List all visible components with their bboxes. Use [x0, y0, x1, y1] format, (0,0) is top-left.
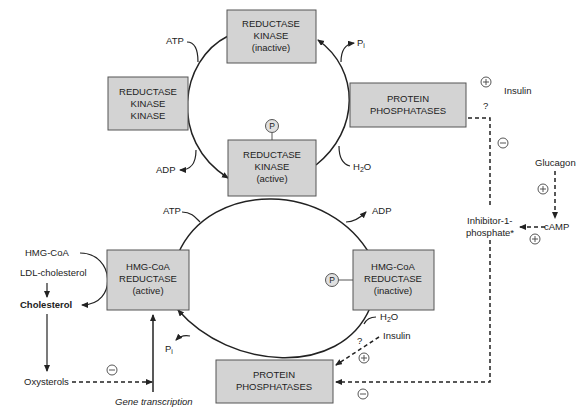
atp-top-arrow	[187, 42, 198, 62]
plus-sign-icon	[530, 234, 540, 244]
svg-text:PROTEIN: PROTEIN	[387, 93, 429, 104]
minus-sign-icon	[107, 365, 117, 375]
question-bottom-label: ?	[357, 335, 362, 346]
svg-text:(active): (active)	[132, 285, 163, 296]
h2o-bottom-arrow	[364, 317, 376, 324]
oxysterols-label: Oxysterols	[24, 376, 69, 387]
arc-phosphorylation-bottom	[178, 199, 372, 258]
pi-top-label: Pi	[357, 37, 365, 49]
plus-sign-icon	[481, 77, 491, 87]
atp-top-label: ATP	[166, 35, 184, 46]
adp-bottom-label: ADP	[372, 205, 392, 216]
arc-phosphorylation-top	[187, 36, 228, 178]
inhibitor-label-line1: Inhibitor-1-	[467, 215, 512, 226]
reductase-kinase-kinase-box: REDUCTASE KINASE KINASE	[108, 77, 188, 130]
svg-text:REDUCTASE: REDUCTASE	[119, 273, 177, 284]
minus-sign-icon	[358, 389, 368, 399]
atp-bottom-arrow	[182, 212, 200, 222]
svg-text:P: P	[329, 275, 335, 285]
h2o-bottom-label: H2O	[380, 311, 398, 323]
phosphate-tag-kinase: P	[266, 120, 279, 141]
svg-text:(active): (active)	[256, 173, 287, 184]
pi-bottom-arrow	[176, 336, 190, 340]
inhibitor-to-phosphatase-top	[370, 118, 490, 205]
svg-text:PROTEIN: PROTEIN	[253, 369, 295, 380]
h2o-top-label: H2O	[353, 161, 371, 173]
h2o-top-arrow	[339, 146, 350, 166]
question-top-label: ?	[483, 100, 488, 111]
arc-dephosphorylation-bottom	[178, 308, 370, 358]
svg-text:HMG-CoA: HMG-CoA	[126, 261, 170, 272]
reductase-kinase-inactive-box: REDUCTASE KINASE (inactive)	[227, 10, 316, 63]
pi-top-arrow	[341, 43, 354, 62]
gene-transcription-label: Gene transcription	[115, 396, 193, 407]
svg-text:KINASE: KINASE	[255, 161, 290, 172]
svg-text:PHOSPHATASES: PHOSPHATASES	[236, 381, 312, 392]
atp-bottom-label: ATP	[163, 205, 181, 216]
svg-text:KINASE: KINASE	[131, 110, 166, 121]
insulin-top-label: Insulin	[504, 85, 531, 96]
cholesterol-label: Cholesterol	[20, 299, 72, 310]
ldl-cholesterol-label: LDL-cholesterol	[20, 267, 87, 278]
reductase-kinase-active-box: REDUCTASE KINASE (active)	[228, 140, 316, 196]
hmg-coa-label: HMG-CoA	[25, 247, 69, 258]
svg-text:REDUCTASE: REDUCTASE	[242, 18, 300, 29]
protein-phosphatases-top-box: PROTEIN PHOSPHATASES	[350, 83, 466, 127]
hmg-coa-reductase-inactive-box: HMG-CoA REDUCTASE (inactive)	[353, 250, 434, 310]
svg-text:HMG-CoA: HMG-CoA	[371, 261, 415, 272]
inhibitor-label-line2: phosphate*	[466, 227, 514, 238]
camp-label: cAMP	[544, 221, 569, 232]
glucagon-label: Glucagon	[535, 157, 576, 168]
svg-text:P: P	[269, 121, 275, 131]
plus-sign-icon	[538, 184, 548, 194]
svg-text:KINASE: KINASE	[254, 30, 289, 41]
svg-text:REDUCTASE: REDUCTASE	[364, 273, 422, 284]
svg-text:PHOSPHATASES: PHOSPHATASES	[370, 105, 446, 116]
adp-bottom-arrow	[346, 212, 366, 222]
insulin-bottom-label: Insulin	[383, 330, 410, 341]
protein-phosphatases-bottom-box: PROTEIN PHOSPHATASES	[216, 360, 333, 403]
hmg-coa-regulation-diagram: REDUCTASE KINASE (inactive) REDUCTASE KI…	[0, 0, 586, 413]
adp-top-arrow	[180, 150, 196, 170]
hmgcoa-to-cholesterol-arrow	[80, 253, 108, 305]
adp-top-label: ADP	[156, 164, 176, 175]
svg-text:REDUCTASE: REDUCTASE	[119, 86, 177, 97]
svg-text:KINASE: KINASE	[131, 98, 166, 109]
minus-sign-icon	[498, 138, 508, 148]
arc-dephosphorylation-top	[316, 40, 349, 165]
pi-bottom-label: Pi	[165, 343, 173, 355]
svg-text:(inactive): (inactive)	[374, 285, 413, 296]
phosphate-tag-reductase: P	[326, 274, 354, 287]
svg-text:REDUCTASE: REDUCTASE	[243, 149, 301, 160]
plus-sign-icon	[359, 353, 369, 363]
hmg-coa-reductase-active-box: HMG-CoA REDUCTASE (active)	[107, 250, 189, 310]
svg-text:(inactive): (inactive)	[252, 42, 291, 53]
